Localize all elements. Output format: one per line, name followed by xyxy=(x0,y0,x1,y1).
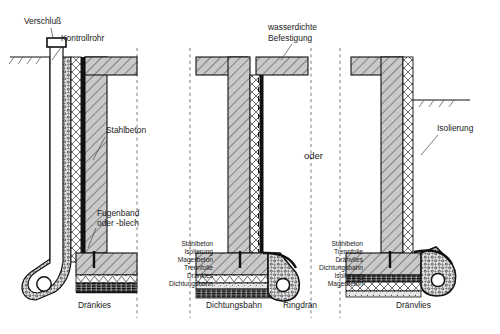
right-lean-concrete-layer xyxy=(346,291,421,297)
construction-detail-svg: Verschluß Kontrollrohr Stahlbeton Fugenb… xyxy=(0,0,500,334)
label-wasserdichte: wasserdichte xyxy=(267,22,317,32)
label-ringdran: Ringdrän xyxy=(283,300,317,310)
left-sealing-sheet-layer xyxy=(76,283,137,292)
label-dichtungsbahn-mid: Dichtungsbahn xyxy=(206,300,262,310)
label-kontrollrohr: Kontrollrohr xyxy=(61,33,105,43)
label-drankies-left: Dränkies xyxy=(78,300,111,310)
mid-sealing-membrane xyxy=(260,75,264,255)
mid-ring-drain-pipe xyxy=(276,278,289,291)
mid-legend-item-3: Trennfolie xyxy=(184,264,213,271)
label-isolierung-right: Isolierung xyxy=(437,123,474,133)
mid-legend-item-4: Dränkies xyxy=(187,272,214,279)
left-sealing-membrane xyxy=(81,57,85,264)
mid-legend-item-5: Dichtungsbahn xyxy=(169,280,213,288)
right-legend-item-0: Stahlbeton xyxy=(331,240,363,247)
left-concrete-floor-slab xyxy=(76,253,137,275)
right-legend-item-5: Magerbeton xyxy=(328,280,364,288)
drawing-canvas: Verschluß Kontrollrohr Stahlbeton Fugenb… xyxy=(0,0,500,334)
mid-legend-item-0: Stahlbeton xyxy=(181,240,213,247)
label-fugenband: Fugenband xyxy=(97,208,140,218)
right-concrete-wall xyxy=(381,57,403,253)
label-befestigung: Befestigung xyxy=(268,33,313,43)
right-legend-item-1: Trennfolie xyxy=(334,248,363,255)
right-legend-item-3: Dichtungsbahn xyxy=(319,264,363,272)
right-drain-pipe xyxy=(431,273,444,286)
right-legend-item-2: Dränvlies xyxy=(336,256,364,263)
mid-concrete-wall xyxy=(228,57,250,253)
left-insulation-layer xyxy=(71,57,81,262)
label-stahlbeton-left: Stahlbeton xyxy=(106,125,146,135)
mid-right-top-slab xyxy=(256,57,308,75)
label-fugenband-2: oder -blech xyxy=(97,218,139,228)
label-verschluss: Verschluß xyxy=(24,16,61,26)
left-concrete-top-slab xyxy=(85,57,137,75)
left-separating-foil-layer xyxy=(76,275,137,283)
right-legend-item-4: Isolierung xyxy=(334,272,363,280)
label-oder: oder xyxy=(304,150,323,161)
mid-legend-item-1: Isolierung xyxy=(184,248,213,256)
label-dranvlies-bottom: Dränvlies xyxy=(396,300,431,310)
mid-legend-item-2: Magerbeton xyxy=(178,256,214,264)
left-drain-pipe xyxy=(37,277,51,291)
right-insulation-layer xyxy=(403,57,413,255)
